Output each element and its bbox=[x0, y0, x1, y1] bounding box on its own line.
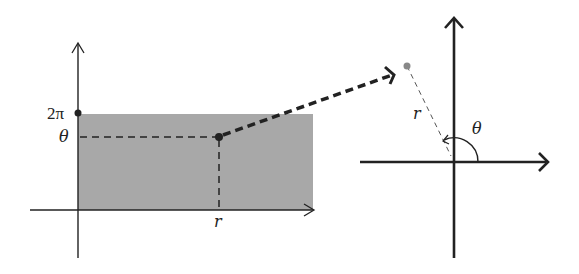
r-theta-point bbox=[215, 133, 223, 141]
theta-label-right: θ bbox=[472, 119, 482, 138]
polar-mapping-diagram: 2π θ r r θ bbox=[0, 0, 579, 274]
theta-arc bbox=[444, 138, 478, 162]
polar-point bbox=[404, 63, 411, 70]
left-panel: 2π θ r bbox=[30, 43, 314, 258]
theta-label-left: θ bbox=[59, 127, 69, 146]
right-panel: r θ bbox=[360, 18, 548, 258]
r-label-right: r bbox=[413, 104, 422, 123]
two-pi-dot bbox=[75, 110, 82, 117]
shaded-region bbox=[78, 114, 313, 210]
r-label-left: r bbox=[214, 212, 223, 231]
two-pi-label: 2π bbox=[47, 104, 65, 123]
